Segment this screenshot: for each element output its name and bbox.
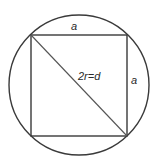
diagonal-line — [31, 35, 127, 136]
right-side-label: a — [131, 74, 137, 86]
inscribed-square-diagram: a a 2r=d — [0, 0, 153, 165]
diagonal-label: 2r=d — [77, 70, 101, 82]
top-side-label: a — [71, 20, 77, 32]
